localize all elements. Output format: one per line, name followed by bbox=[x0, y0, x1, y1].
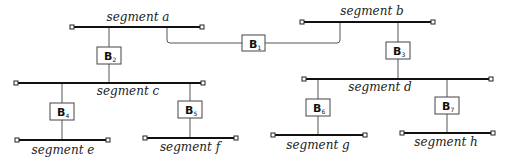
bridge-b7: B7 bbox=[435, 97, 459, 114]
segment-c-label: segment c bbox=[97, 84, 160, 98]
segment-d: segment d bbox=[302, 77, 493, 94]
segment-g-label: segment g bbox=[286, 138, 350, 152]
bridge-b7-letter: B bbox=[442, 100, 450, 113]
segment-d-label: segment d bbox=[348, 80, 412, 94]
terminator-icon bbox=[400, 131, 404, 135]
terminator-icon bbox=[271, 133, 275, 137]
bridge-b4-subscript: 4 bbox=[65, 112, 69, 119]
terminator-icon bbox=[15, 138, 19, 142]
segment-b: segment b bbox=[300, 4, 435, 24]
bridge-b4-letter: B bbox=[57, 106, 65, 119]
bridge-b2-letter: B bbox=[104, 50, 112, 63]
segment-c: segment c bbox=[14, 81, 205, 98]
terminator-icon bbox=[14, 81, 18, 85]
bridge-b2: B2 bbox=[97, 47, 121, 64]
segment-e: segment e bbox=[15, 138, 110, 157]
bridge-b5-subscript: 5 bbox=[193, 110, 197, 117]
terminator-icon bbox=[70, 25, 74, 29]
segment-a: segment a bbox=[70, 10, 204, 29]
bridge-b3-subscript: 3 bbox=[401, 51, 405, 58]
terminator-icon bbox=[106, 138, 110, 142]
terminator-icon bbox=[489, 77, 493, 81]
bridge-b6-letter: B bbox=[313, 102, 321, 115]
bridge-b3: B3 bbox=[386, 42, 410, 59]
bridge-b2-subscript: 2 bbox=[112, 56, 116, 63]
terminator-icon bbox=[491, 131, 495, 135]
bridge-b7-subscript: 7 bbox=[450, 106, 454, 113]
segment-f: segment f bbox=[143, 136, 238, 154]
bridge-b1-subscript: 1 bbox=[257, 44, 261, 51]
segment-a-label: segment a bbox=[107, 10, 170, 24]
segment-h-label: segment h bbox=[414, 135, 478, 149]
terminator-icon bbox=[143, 136, 147, 140]
terminator-icon bbox=[431, 20, 435, 24]
terminator-icon bbox=[234, 136, 238, 140]
terminator-icon bbox=[201, 81, 205, 85]
segment-f-label: segment f bbox=[160, 140, 223, 154]
bridge-b5: B5 bbox=[178, 101, 202, 118]
segment-b-label: segment b bbox=[340, 4, 403, 18]
bridge-b6-subscript: 6 bbox=[321, 108, 325, 115]
bridge-b3-letter: B bbox=[393, 45, 401, 58]
bridge-b4: B4 bbox=[50, 103, 74, 120]
bridge-b5-letter: B bbox=[185, 104, 193, 117]
bridge-b1: B1 bbox=[242, 35, 265, 51]
bridge-b6: B6 bbox=[306, 99, 330, 116]
terminator-icon bbox=[302, 77, 306, 81]
terminator-icon bbox=[200, 25, 204, 29]
segment-g: segment g bbox=[271, 133, 367, 152]
terminator-icon bbox=[300, 20, 304, 24]
terminator-icon bbox=[363, 133, 367, 137]
segment-h: segment h bbox=[400, 131, 495, 149]
segment-e-label: segment e bbox=[32, 143, 95, 157]
bridged-lan-diagram: segment a segment b segment c segment d … bbox=[0, 0, 505, 162]
bridge-b1-letter: B bbox=[249, 38, 257, 51]
